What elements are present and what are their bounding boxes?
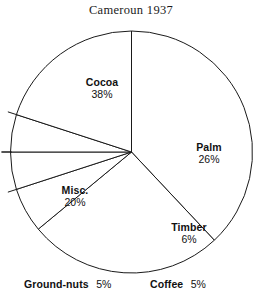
slice-label-palm: Palm 26% bbox=[178, 141, 240, 166]
slice-name-ground-nuts: Ground-nuts bbox=[24, 278, 89, 290]
slice-name-misc: Misc. bbox=[42, 184, 108, 196]
slice-name-timber: Timber bbox=[158, 221, 220, 233]
slice-name-coffee: Coffee bbox=[150, 278, 183, 290]
slice-label-timber: Timber 6% bbox=[158, 221, 220, 246]
slice-label-misc: Misc. 20% bbox=[42, 184, 108, 209]
slice-percent-ground-nuts: 5% bbox=[96, 278, 111, 290]
slice-name-palm: Palm bbox=[178, 141, 240, 153]
slice-label-coffee: Coffee 5% bbox=[150, 274, 206, 293]
slice-percent-coffee: 5% bbox=[191, 278, 206, 290]
slice-percent-palm: 26% bbox=[178, 153, 240, 165]
slice-percent-misc: 20% bbox=[42, 196, 108, 208]
slice-label-cocoa: Cocoa 38% bbox=[60, 76, 144, 101]
slice-percent-timber: 6% bbox=[158, 233, 220, 245]
leader-line bbox=[8, 189, 18, 192]
slice-label-ground-nuts: Ground-nuts 5% bbox=[24, 274, 111, 293]
pie-chart-figure: Cameroun 1937 Cocoa 38% Palm 26% Timber … bbox=[0, 0, 262, 296]
slice-percent-cocoa: 38% bbox=[60, 88, 144, 100]
slice-name-cocoa: Cocoa bbox=[60, 76, 144, 88]
leader-line bbox=[8, 112, 18, 115]
